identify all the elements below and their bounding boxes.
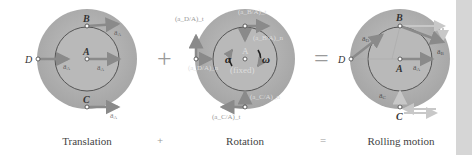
label-aDA-n: (a_D/A)_n bbox=[188, 64, 219, 72]
point-D bbox=[349, 57, 353, 61]
point-B bbox=[85, 24, 89, 28]
point-C bbox=[243, 105, 247, 109]
label-D: D bbox=[337, 54, 346, 65]
label-aBA-t: (a_B/A)_t bbox=[238, 8, 266, 16]
label-C: C bbox=[83, 94, 90, 105]
point-C bbox=[85, 105, 89, 109]
point-C bbox=[398, 105, 402, 109]
point-D bbox=[36, 57, 40, 61]
label-aBA-n: (a_B/A)_n bbox=[253, 34, 283, 42]
label-alpha: α bbox=[225, 53, 232, 65]
plus-operator: + bbox=[157, 44, 172, 73]
caption-plus: + bbox=[157, 136, 164, 145]
rolling-motion-diagram: B A D C aA aA aA aA + bbox=[0, 0, 472, 155]
label-omega: ω bbox=[262, 53, 270, 65]
label-fixed: (fixed) bbox=[230, 65, 255, 75]
caption-equals: = bbox=[320, 136, 327, 145]
label-A: A bbox=[395, 63, 403, 74]
label-D: D bbox=[24, 54, 33, 65]
equals-operator: = bbox=[314, 44, 329, 73]
point-B bbox=[398, 24, 402, 28]
label-aCA-t: (a_C/A)_t bbox=[212, 113, 240, 121]
translation-panel: B A D C aA aA aA aA bbox=[24, 9, 137, 120]
label-C: C bbox=[396, 111, 403, 122]
page-edge-strip bbox=[456, 0, 472, 155]
rolling-panel: B A D C aD aB aA aC bbox=[337, 9, 450, 122]
label-aCA-n: (a_C/A)_n bbox=[250, 93, 280, 101]
point-A bbox=[85, 57, 89, 61]
rotation-panel: A (fixed) α ω (a_D/A)_t (a_D/A)_n (a_B/A… bbox=[175, 8, 295, 121]
point-B bbox=[243, 24, 247, 28]
point-A-fixed bbox=[243, 57, 247, 61]
caption-translation: Translation bbox=[62, 135, 112, 147]
label-aA-C: aA bbox=[110, 111, 118, 120]
caption-rolling-motion: Rolling motion bbox=[368, 135, 435, 147]
label-aDA-t: (a_D/A)_t bbox=[175, 15, 204, 23]
label-A: A bbox=[82, 46, 90, 57]
label-B: B bbox=[395, 12, 403, 23]
point-A bbox=[398, 57, 402, 61]
point-D bbox=[194, 57, 198, 61]
caption-rotation: Rotation bbox=[226, 135, 264, 147]
label-A: A bbox=[242, 46, 249, 56]
label-B: B bbox=[82, 13, 90, 24]
